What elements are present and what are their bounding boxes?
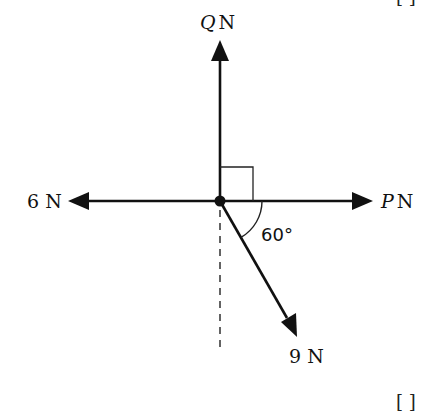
marks-bracket-top: [ ] xyxy=(396,0,416,7)
force-p-label: PN xyxy=(381,192,413,211)
force-q-arrow xyxy=(211,40,229,201)
force-9n-arrow xyxy=(220,201,297,337)
force-p-symbol: P xyxy=(381,190,394,212)
force-9n-label: 9 N xyxy=(289,347,324,366)
force-6n-label: 6 N xyxy=(27,192,62,211)
marks-bracket-bottom: [ ] xyxy=(396,391,416,412)
force-q-symbol: Q xyxy=(200,11,216,33)
origin-point xyxy=(215,196,226,207)
force-q-unit: N xyxy=(219,11,236,33)
force-6n-arrow xyxy=(68,192,220,210)
angle-arc xyxy=(241,201,262,237)
right-angle-marker xyxy=(220,167,253,201)
angle-label: 60° xyxy=(261,226,293,244)
force-p-unit: N xyxy=(397,190,414,212)
force-q-label: QN xyxy=(200,13,235,32)
force-p-arrow xyxy=(220,192,373,210)
